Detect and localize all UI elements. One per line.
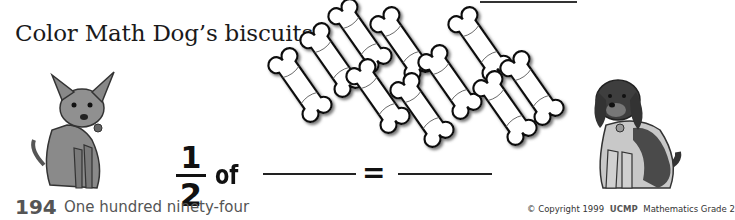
series-title: Mathematics Grade 2 <box>643 204 735 214</box>
page-number-words: One hundred ninety-four <box>64 198 249 216</box>
equals-sign: = <box>362 156 385 189</box>
chihuahua-dog-illustration <box>22 70 122 195</box>
answer-blank-2[interactable] <box>398 173 492 175</box>
publisher-logo-icon: UCMP <box>610 204 638 214</box>
spaniel-dog-illustration <box>588 70 688 195</box>
copyright-line: © Copyright 1999 UCMP Mathematics Grade … <box>527 204 735 214</box>
of-label: of <box>215 160 238 190</box>
answer-blank-1[interactable] <box>263 173 356 175</box>
biscuits-group <box>270 0 570 140</box>
page-number: 194 <box>15 195 57 219</box>
fraction-numerator: 1 <box>174 144 208 172</box>
copyright-text: © Copyright 1999 <box>527 204 604 214</box>
